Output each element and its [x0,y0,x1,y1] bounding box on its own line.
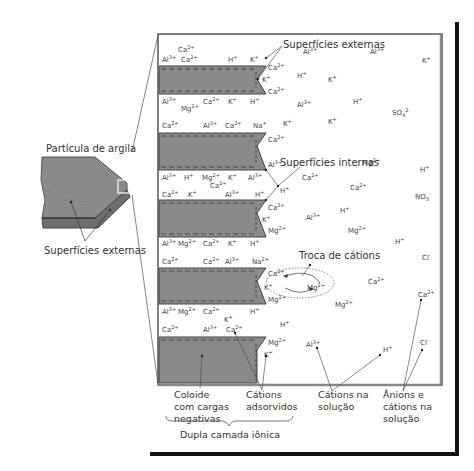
clay-plate-5 [159,337,266,383]
svg-text:com cargas: com cargas [174,401,229,412]
zoom-line-bottom [132,195,158,384]
svg-text:Coloide: Coloide [174,389,210,400]
particle-external-label: Superfícies externas [44,245,146,256]
cation-exchange-label: Troca de cátions [298,250,380,261]
svg-text:adsorvidos: adsorvidos [246,401,298,412]
clay-plate-1 [159,66,266,94]
clay-plate-4 [159,268,266,304]
colloid-label: Coloide com cargas negativas [174,389,229,424]
double-layer-label: Dupla camada iônica [180,429,280,440]
svg-text:Cátions: Cátions [246,389,282,400]
svg-text:solução: solução [383,413,419,424]
ion-label: NO3- [415,191,431,202]
svg-text:Cátions na: Cátions na [318,389,368,400]
clay-plate-3 [159,200,266,237]
internal-surfaces-label: Superfícies internas [280,157,379,168]
svg-text:cátions na: cátions na [383,401,432,412]
anions-cations-label: Ânions e cátions na solução [383,389,432,424]
particle-title: Partícula de argila [46,143,136,154]
zoom-line-top [132,35,158,152]
external-surfaces-label: Superfícies externas [283,39,385,50]
svg-text:solução: solução [318,401,354,412]
clay-particle [41,157,133,241]
clay-plate-2 [159,133,266,170]
solution-cations-label: Cátions na solução [318,389,368,412]
ionic-double-layer-diagram: Partícula de argila Superfícies externas [0,0,474,471]
adsorbed-cations-label: Cátions adsorvidos [246,389,298,412]
svg-text:negativas: negativas [174,413,221,424]
svg-text:Ânions e: Ânions e [383,389,424,400]
